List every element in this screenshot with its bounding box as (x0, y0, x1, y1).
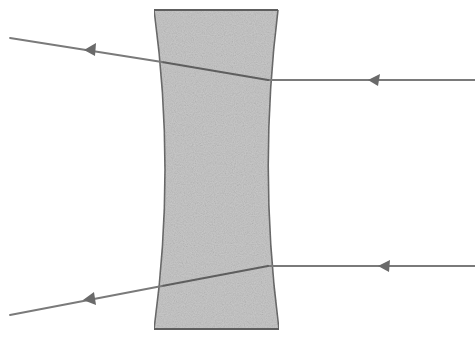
diagram-svg (0, 0, 475, 339)
concave-lens (154, 10, 279, 329)
arrowhead-icon (368, 74, 380, 86)
lens-diagram: Concave (diverging) lens ray diagram (0, 0, 475, 339)
arrowhead-icon (83, 292, 96, 305)
arrowhead-icon (378, 260, 390, 272)
arrowhead-icon (84, 43, 96, 56)
